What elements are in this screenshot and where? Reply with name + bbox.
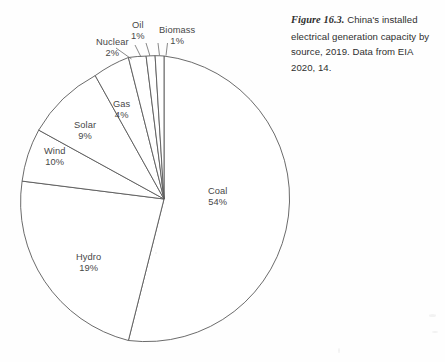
scan-artifact: [155, 252, 157, 254]
leader-line-biomass: [158, 43, 160, 56]
leader-line-nuclear: [116, 48, 132, 59]
figure-number: Figure 16.3.: [291, 14, 344, 25]
leader-line-biomass-2: [166, 43, 168, 56]
scan-artifact: [432, 331, 438, 333]
scan-artifact: [338, 348, 340, 353]
figure-page: Coal 54% Hydro 19% Wind 10% Solar 9% Gas…: [0, 0, 445, 362]
pie-chart: Coal 54% Hydro 19% Wind 10% Solar 9% Gas…: [0, 0, 330, 362]
scan-artifact: [429, 314, 436, 317]
leader-line-gasgap: [135, 45, 141, 57]
leader-line-oil: [146, 43, 150, 56]
pie-chart-svg: [0, 0, 330, 362]
figure-caption: Figure 16.3. China's installed electrica…: [291, 12, 439, 75]
